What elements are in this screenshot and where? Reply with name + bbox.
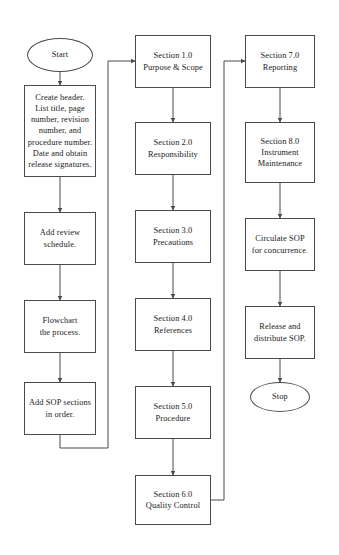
node-start-label: Start	[50, 49, 70, 60]
node-section-6-label: Section 6.0 Quality Control	[144, 489, 202, 511]
node-add-review-schedule[interactable]: Add review schedule.	[24, 212, 96, 265]
node-section-3[interactable]: Section 3.0 Precautions	[135, 210, 211, 263]
node-section-3-label: Section 3.0 Precautions	[151, 225, 195, 247]
node-stop-label: Stop	[270, 391, 290, 402]
node-release-sop[interactable]: Release and distribute SOP.	[245, 306, 315, 359]
node-section-5[interactable]: Section 5.0 Procedure	[135, 386, 211, 439]
node-section-1[interactable]: Section 1.0 Purpose & Scope	[135, 35, 211, 88]
node-section-4[interactable]: Section 4.0 References	[135, 298, 211, 351]
edge-section6-to-section7	[211, 61, 245, 500]
node-section-7[interactable]: Section 7.0 Reporting	[245, 35, 315, 88]
node-section-2[interactable]: Section 2.0 Responsibility	[135, 122, 211, 175]
node-circulate-sop-label: Circulate SOP for concurrence.	[250, 233, 310, 255]
node-section-8[interactable]: Section 8.0 Instrument Maintenance	[245, 122, 315, 183]
node-section-7-label: Section 7.0 Reporting	[259, 50, 302, 72]
node-circulate-sop[interactable]: Circulate SOP for concurrence.	[245, 218, 315, 271]
node-section-5-label: Section 5.0 Procedure	[152, 401, 195, 423]
node-flowchart-process-label: Flowchart the process.	[38, 315, 83, 337]
node-release-sop-label: Release and distribute SOP.	[252, 321, 308, 343]
node-section-4-label: Section 4.0 References	[152, 313, 195, 335]
node-section-2-label: Section 2.0 Responsibility	[146, 137, 200, 159]
node-start[interactable]: Start	[27, 38, 93, 72]
node-add-sop-sections[interactable]: Add SOP sections in order.	[24, 382, 96, 435]
node-flowchart-process[interactable]: Flowchart the process.	[24, 300, 96, 353]
node-section-8-label: Section 8.0 Instrument Maintenance	[256, 136, 304, 170]
node-section-6[interactable]: Section 6.0 Quality Control	[135, 475, 211, 525]
node-section-1-label: Section 1.0 Purpose & Scope	[141, 50, 205, 72]
node-stop[interactable]: Stop	[250, 382, 310, 412]
node-create-header[interactable]: Create header. List title, page number, …	[24, 85, 96, 177]
node-add-sop-sections-label: Add SOP sections in order.	[27, 397, 93, 419]
flowchart-canvas: Start Create header. List title, page nu…	[0, 0, 339, 555]
node-create-header-label: Create header. List title, page number, …	[26, 92, 95, 170]
node-add-review-schedule-label: Add review schedule.	[38, 227, 82, 249]
